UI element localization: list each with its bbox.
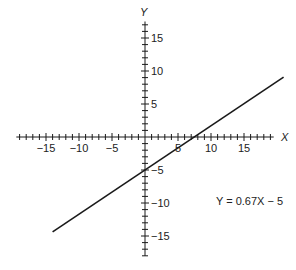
equation-annotation: Y = 0.67X − 5 xyxy=(216,195,283,207)
y-tick-label: −10 xyxy=(151,197,170,209)
y-tick-label: −5 xyxy=(151,164,164,176)
x-tick-label: −15 xyxy=(37,142,56,154)
x-axis-title: X xyxy=(280,131,289,143)
y-tick-label: 5 xyxy=(151,98,157,110)
x-tick-label: 15 xyxy=(238,142,250,154)
x-tick-label: −10 xyxy=(70,142,89,154)
chart-container: −15−10−551015−15−10−551015 X Y Y = 0.67X… xyxy=(0,0,296,270)
y-axis-title: Y xyxy=(140,6,148,18)
y-tick-label: 10 xyxy=(151,65,163,77)
x-tick-label: 10 xyxy=(205,142,217,154)
y-tick-label: 15 xyxy=(151,32,163,44)
x-tick-label: −5 xyxy=(106,142,119,154)
line-chart: −15−10−551015−15−10−551015 X Y Y = 0.67X… xyxy=(0,0,296,270)
axes xyxy=(16,22,273,256)
y-tick-label: −15 xyxy=(151,230,170,242)
